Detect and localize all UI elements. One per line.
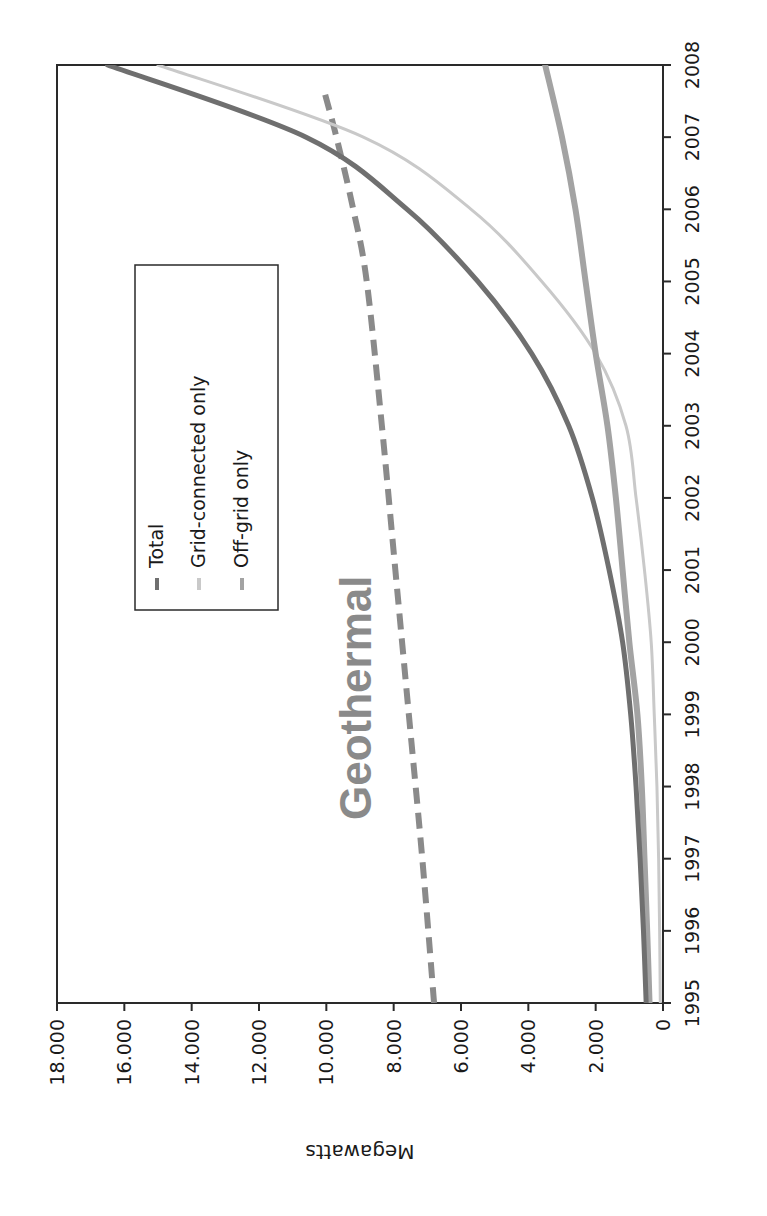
legend-label: Total [145, 524, 167, 569]
geothermal-dashed-line [323, 87, 434, 1003]
geothermal-annotation: Geothermal [331, 575, 380, 820]
value-tick-label: 2.000 [585, 1019, 607, 1073]
value-tick-label: 10.000 [315, 1019, 337, 1085]
year-tick-label: 2007 [681, 113, 703, 161]
year-tick-label: 1997 [681, 835, 703, 883]
y-axis-title: Megawatts [305, 1140, 414, 1164]
value-tick-label: 14.000 [181, 1019, 203, 1085]
value-tick-label: 18.000 [46, 1019, 68, 1085]
value-tick-label: 16.000 [113, 1019, 135, 1085]
legend-label: Grid-connected only [187, 376, 209, 568]
value-tick-label: 8.000 [383, 1019, 405, 1073]
year-tick-label: 2004 [681, 329, 703, 377]
value-tick-label: 0 [652, 1019, 674, 1031]
year-tick-label: 2008 [681, 41, 703, 89]
year-tick-label: 2000 [681, 618, 703, 666]
value-tick-label: 12.000 [248, 1019, 270, 1085]
year-tick-label: 1998 [681, 762, 703, 810]
value-tick-label: 6.000 [450, 1019, 472, 1073]
year-tick-label: 2003 [681, 402, 703, 450]
year-tick-label: 2006 [681, 185, 703, 233]
year-tick-label: 1995 [681, 979, 703, 1027]
legend-label: Off-grid only [230, 450, 252, 568]
year-tick-label: 2001 [681, 546, 703, 594]
year-tick-label: 2005 [681, 257, 703, 305]
year-tick-label: 2002 [681, 474, 703, 522]
megawatts-axis-ticks: 02.0004.0006.0008.00010.00012.00014.0001… [46, 1003, 674, 1085]
year-axis-ticks: 1995199619971998199920002001200220032004… [663, 41, 703, 1027]
value-tick-label: 4.000 [517, 1019, 539, 1073]
series-line-off-grid-only [545, 65, 649, 1003]
year-tick-label: 1999 [681, 690, 703, 738]
year-tick-label: 1996 [681, 907, 703, 955]
legend: TotalGrid-connected onlyOff-grid only [135, 265, 278, 610]
rotated-line-chart: 02.0004.0006.0008.00010.00012.00014.0001… [0, 0, 767, 1216]
